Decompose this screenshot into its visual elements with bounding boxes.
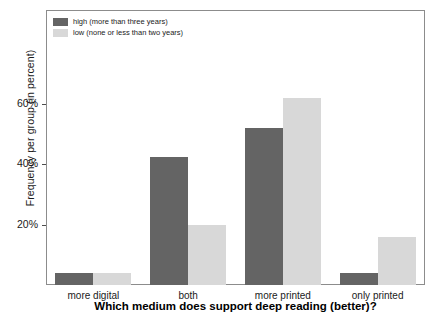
y-axis-tick-label: 60% <box>17 97 38 109</box>
y-axis-tick-mark <box>42 225 46 226</box>
legend-label: low (none or less than two years) <box>73 28 183 37</box>
bar <box>55 273 93 285</box>
bar <box>283 98 321 285</box>
chart-legend: high (more than three years)low (none or… <box>53 17 183 37</box>
y-axis-tick: 20% <box>0 225 46 226</box>
y-axis-tick-mark <box>42 164 46 165</box>
y-axis-tick-label: 20% <box>17 218 38 230</box>
y-axis-tick: 40% <box>0 164 46 165</box>
legend-item: high (more than three years) <box>53 17 183 26</box>
bar <box>150 157 188 285</box>
legend-item: low (none or less than two years) <box>53 28 183 37</box>
y-axis-tick-label: 40% <box>17 157 38 169</box>
y-axis-tick-mark <box>42 104 46 105</box>
plot-area <box>46 10 425 285</box>
legend-swatch <box>53 18 68 26</box>
y-axis-tick: 60% <box>0 104 46 105</box>
y-axis-label: Frequency per group (in percent) <box>24 13 36 243</box>
bar <box>93 273 131 285</box>
x-axis-title: Which medium does support deep reading (… <box>46 300 425 312</box>
bar-chart-figure: Frequency per group (in percent) 20%40%6… <box>0 0 438 319</box>
bar <box>378 237 416 285</box>
bar <box>245 128 283 285</box>
bar <box>188 225 226 285</box>
bar <box>340 273 378 285</box>
legend-label: high (more than three years) <box>73 17 168 26</box>
legend-swatch <box>53 29 68 37</box>
